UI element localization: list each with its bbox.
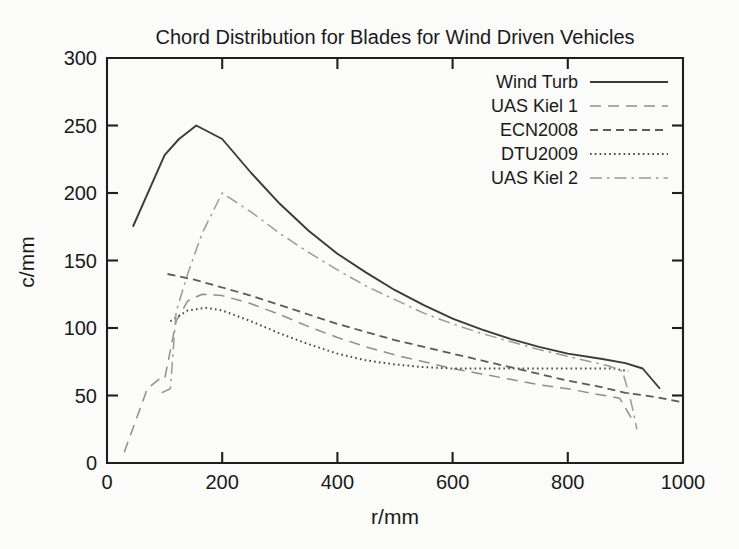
- legend-label-uas-kiel-1: UAS Kiel 1: [491, 96, 578, 116]
- series-line-wind-turb: [133, 126, 660, 389]
- x-tick-label: 1000: [661, 471, 706, 493]
- x-tick-label: 600: [436, 471, 469, 493]
- y-tick-label: 0: [86, 452, 97, 474]
- chord-distribution-chart: Chord Distribution for Blades for Wind D…: [0, 0, 739, 549]
- chart-legend: Wind TurbUAS Kiel 1ECN2008DTU2009UAS Kie…: [491, 72, 668, 188]
- plot-frame: [107, 58, 683, 463]
- y-axis-title: c/mm: [15, 236, 38, 287]
- x-axis-title: r/mm: [371, 505, 419, 528]
- x-tick-label: 0: [101, 471, 112, 493]
- y-tick-label: 150: [64, 250, 97, 272]
- legend-label-dtu2009: DTU2009: [501, 144, 578, 164]
- chart-title: Chord Distribution for Blades for Wind D…: [155, 26, 634, 48]
- legend-label-ecn2008: ECN2008: [500, 120, 578, 140]
- y-tick-label: 250: [64, 115, 97, 137]
- y-tick-label: 50: [75, 385, 97, 407]
- x-tick-label: 200: [206, 471, 239, 493]
- series-line-uas-kiel-1: [124, 294, 634, 452]
- series-line-uas-kiel-2: [162, 193, 637, 429]
- y-tick-label: 300: [64, 47, 97, 69]
- x-tick-label: 800: [551, 471, 584, 493]
- x-tick-label: 400: [321, 471, 354, 493]
- legend-label-wind-turb: Wind Turb: [496, 72, 578, 92]
- data-series-layer: [124, 126, 683, 453]
- x-axis-ticks: 02004006008001000: [101, 58, 705, 493]
- chart-figure: Chord Distribution for Blades for Wind D…: [0, 0, 739, 549]
- series-line-dtu2009: [170, 308, 628, 371]
- y-tick-label: 200: [64, 182, 97, 204]
- series-line-ecn2008: [167, 274, 683, 402]
- axis-frame: [107, 58, 683, 463]
- y-axis-ticks: 050100150200250300: [64, 47, 683, 474]
- legend-label-uas-kiel-2: UAS Kiel 2: [491, 168, 578, 188]
- y-tick-label: 100: [64, 317, 97, 339]
